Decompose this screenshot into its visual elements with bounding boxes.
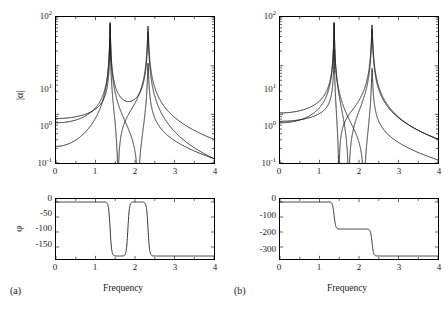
phase-xtick-label-2: 2 xyxy=(125,263,145,272)
mag-xtick-label-1: 1 xyxy=(309,167,329,176)
phase-xtick-label-2: 2 xyxy=(349,263,369,272)
mag-ytick-label-100: 102 xyxy=(248,12,276,21)
phase-xtick-label-3: 3 xyxy=(165,263,185,272)
phase-curve xyxy=(280,202,438,256)
phase-ytick-label-m100: -100 xyxy=(20,224,52,233)
phase-ytick-label-m150: -150 xyxy=(20,240,52,249)
mag-xtick-label-0: 0 xyxy=(45,167,65,176)
panel-tag-a: (a) xyxy=(10,285,21,296)
figure-root: 102 101 100 10-1 |α| 0 1 2 3 4 0 -50 -10… xyxy=(0,0,448,311)
phase-ytick-label-m300: -300 xyxy=(238,245,276,254)
mag-xtick-label-1: 1 xyxy=(85,167,105,176)
phase-plot-a xyxy=(55,198,215,260)
phase-ytick-label-0: 0 xyxy=(20,194,52,203)
phase-axis-label: φ xyxy=(12,226,24,232)
phase-plot-b xyxy=(279,198,439,260)
magnitude-axis-label: |α| xyxy=(14,91,25,100)
phase-xtick-label-4: 4 xyxy=(205,263,225,272)
frequency-axis-label: Frequency xyxy=(103,283,143,293)
phase-xtick-label-4: 4 xyxy=(429,263,448,272)
mag-xtick-label-4: 4 xyxy=(429,167,448,176)
phase-xtick-label-0: 0 xyxy=(269,263,289,272)
mag-ytick-label-10: 101 xyxy=(248,85,276,94)
panel-b: 102 101 100 10-1 0 1 2 3 4 0 -100 -200 -… xyxy=(224,0,448,311)
magnitude-curve-1 xyxy=(56,22,214,158)
phase-xtick-label-0: 0 xyxy=(45,263,65,272)
mag-xtick-label-2: 2 xyxy=(349,167,369,176)
magnitude-curve-3 xyxy=(280,23,438,163)
mag-ytick-label-100: 102 xyxy=(24,12,52,21)
magnitude-curve-3 xyxy=(56,24,214,163)
mag-xtick-label-0: 0 xyxy=(269,167,289,176)
phase-curve xyxy=(56,202,214,256)
mag-xtick-label-2: 2 xyxy=(125,167,145,176)
phase-ytick-label-m100: -100 xyxy=(238,211,276,220)
panel-tag-b: (b) xyxy=(234,285,246,296)
phase-xtick-label-3: 3 xyxy=(389,263,409,272)
phase-ytick-label-0: 0 xyxy=(238,194,276,203)
mag-xtick-label-4: 4 xyxy=(205,167,225,176)
mag-ytick-label-10: 101 xyxy=(24,85,52,94)
mag-ytick-label-1: 100 xyxy=(24,122,52,131)
phase-xtick-label-1: 1 xyxy=(85,263,105,272)
mag-xtick-label-3: 3 xyxy=(165,167,185,176)
panel-a: 102 101 100 10-1 |α| 0 1 2 3 4 0 -50 -10… xyxy=(0,0,224,311)
phase-ytick-label-m200: -200 xyxy=(238,228,276,237)
magnitude-plot-a xyxy=(55,16,215,164)
mag-ytick-label-1: 100 xyxy=(248,122,276,131)
magnitude-plot-b xyxy=(279,16,439,164)
phase-xtick-label-1: 1 xyxy=(309,263,329,272)
mag-xtick-label-3: 3 xyxy=(389,167,409,176)
frequency-axis-label: Frequency xyxy=(327,283,367,293)
phase-ytick-label-m50: -50 xyxy=(20,209,52,218)
magnitude-curve-2 xyxy=(56,26,214,163)
